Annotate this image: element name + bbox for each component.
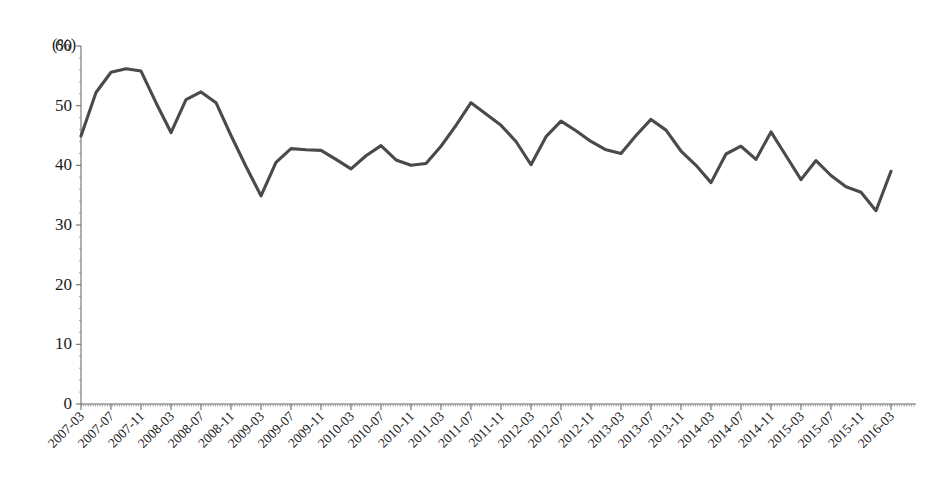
y-axis-ticks xyxy=(76,46,81,404)
y-axis-tick-labels: 0102030405060 xyxy=(55,36,72,413)
y-tick-label-0: 0 xyxy=(64,394,73,413)
y-tick-label-60: 60 xyxy=(55,36,72,55)
y-tick-label-30: 30 xyxy=(55,215,72,234)
y-tick-label-50: 50 xyxy=(55,96,72,115)
y-tick-label-40: 40 xyxy=(55,155,72,174)
line-chart: (%) 0102030405060 2007-032007-072007-112… xyxy=(0,0,943,496)
chart-container: (%) 0102030405060 2007-032007-072007-112… xyxy=(0,0,943,496)
series-line-ratio xyxy=(81,69,891,211)
x-axis-ticks xyxy=(81,404,914,410)
y-tick-label-10: 10 xyxy=(55,334,72,353)
y-tick-label-20: 20 xyxy=(55,275,72,294)
x-axis-tick-labels: 2007-032007-072007-112008-032008-072008-… xyxy=(45,408,898,451)
